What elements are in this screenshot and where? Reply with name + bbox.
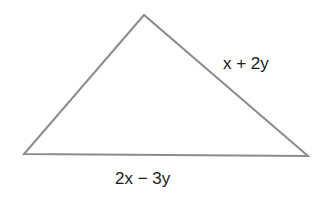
right-side-label: x + 2y (223, 55, 269, 72)
base-label-text: 2x − 3y (115, 169, 170, 188)
triangle (24, 15, 308, 156)
right-side-label-text: x + 2y (223, 54, 269, 73)
triangle-figure (0, 0, 323, 197)
base-label: 2x − 3y (115, 170, 170, 187)
